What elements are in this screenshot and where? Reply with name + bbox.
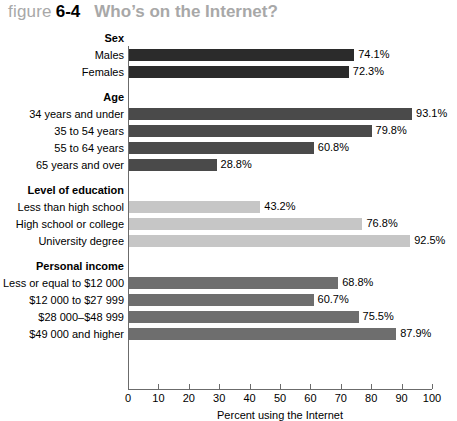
bar-row: 65 years and over28.8% (0, 159, 457, 171)
bar-value-label: 68.8% (342, 276, 373, 289)
bar (129, 277, 338, 289)
x-axis-tick-mark (189, 384, 190, 389)
bar (129, 49, 354, 61)
figure-title: figure6-4Who’s on the Internet? (8, 2, 278, 22)
x-axis-tick-mark (341, 384, 342, 389)
bar (129, 328, 396, 340)
group-header: Sex (0, 32, 124, 45)
bar-row-label: Less than high school (0, 201, 124, 213)
bar-row: University degree92.5% (0, 235, 457, 247)
bar-row-label: $28 000–$48 999 (0, 311, 124, 323)
bar-row: $12 000 to $27 99960.7% (0, 294, 457, 306)
bar-row: Less than high school43.2% (0, 201, 457, 213)
x-axis-tick-mark (280, 384, 281, 389)
bar-chart: SexMales74.1%Females72.3%Age34 years and… (0, 32, 457, 421)
bar-row-label: High school or college (0, 218, 124, 230)
figure-number: 6-4 (56, 2, 81, 21)
bar (129, 294, 314, 306)
x-axis-tick-label: 90 (387, 392, 417, 405)
bar-value-label: 75.5% (363, 310, 394, 323)
bar (129, 201, 260, 213)
x-axis-tick-mark (128, 384, 129, 389)
bar-row: $28 000–$48 99975.5% (0, 311, 457, 323)
bar-row: $49 000 and higher87.9% (0, 328, 457, 340)
bar-row: 34 years and under93.1% (0, 108, 457, 120)
bar-value-label: 28.8% (221, 158, 252, 171)
bar-row-label: University degree (0, 235, 124, 247)
bar (129, 159, 217, 171)
x-axis-tick-label: 80 (356, 392, 386, 405)
x-axis-tick-mark (432, 384, 433, 389)
x-axis-tick-label: 50 (265, 392, 295, 405)
bar-value-label: 92.5% (414, 234, 445, 247)
x-axis-tick-mark (219, 384, 220, 389)
x-axis-tick-label: 100 (417, 392, 447, 405)
bar-value-label: 72.3% (353, 65, 384, 78)
x-axis-tick-mark (158, 384, 159, 389)
bar-row: Females72.3% (0, 66, 457, 78)
x-axis-tick-mark (371, 384, 372, 389)
figure-kicker: figure (8, 2, 52, 21)
bar-value-label: 93.1% (416, 107, 447, 120)
bar-row: 35 to 54 years79.8% (0, 125, 457, 137)
x-axis-tick-mark (250, 384, 251, 389)
bar (129, 108, 412, 120)
group-header: Age (0, 91, 124, 104)
bar (129, 142, 314, 154)
group-header: Personal income (0, 260, 124, 273)
figure-headline: Who’s on the Internet? (94, 2, 278, 21)
x-axis-tick-mark (310, 384, 311, 389)
x-axis-tick-label: 70 (326, 392, 356, 405)
bar-row-label: 35 to 54 years (0, 125, 124, 137)
x-axis-tick-label: 40 (235, 392, 265, 405)
bar-row: High school or college76.8% (0, 218, 457, 230)
x-axis-tick-label: 60 (295, 392, 325, 405)
bar (129, 125, 372, 137)
bar-row: Less or equal to $12 00068.8% (0, 277, 457, 289)
bar-value-label: 60.8% (318, 141, 349, 154)
bar-row-label: 34 years and under (0, 108, 124, 120)
bar-value-label: 43.2% (264, 200, 295, 213)
bar-row-label: Males (0, 49, 124, 61)
x-axis-tick-label: 20 (174, 392, 204, 405)
bar-row-label: $12 000 to $27 999 (0, 294, 124, 306)
bar-row: Males74.1% (0, 49, 457, 61)
x-axis-tick-label: 0 (113, 392, 143, 405)
x-axis-tick-mark (402, 384, 403, 389)
bar-value-label: 76.8% (366, 217, 397, 230)
value-axis-line (128, 389, 432, 390)
bar-row-label: 55 to 64 years (0, 142, 124, 154)
bar (129, 311, 359, 323)
bar-value-label: 74.1% (358, 48, 389, 61)
bar (129, 235, 410, 247)
bar-value-label: 60.7% (318, 293, 349, 306)
bar (129, 218, 362, 230)
x-axis-tick-label: 10 (143, 392, 173, 405)
x-axis-tick-label: 30 (204, 392, 234, 405)
x-axis-title: Percent using the Internet (128, 409, 432, 421)
bar-row-label: $49 000 and higher (0, 328, 124, 340)
bar-value-label: 79.8% (376, 124, 407, 137)
group-header: Level of education (0, 184, 124, 197)
bar-row-label: Less or equal to $12 000 (0, 277, 124, 289)
bar-value-label: 87.9% (400, 327, 431, 340)
bar-row-label: 65 years and over (0, 159, 124, 171)
bar (129, 66, 349, 78)
bar-row: 55 to 64 years60.8% (0, 142, 457, 154)
bar-row-label: Females (0, 66, 124, 78)
